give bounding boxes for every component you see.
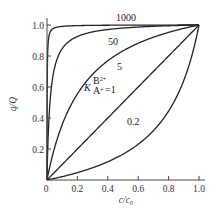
y-axis-title: q/Q	[8, 97, 18, 111]
svg-text:K: K	[83, 82, 92, 93]
curve-label-50: 50	[108, 36, 118, 47]
curve-label-1000: 1000	[116, 12, 136, 23]
ion-exchange-isotherm-chart: 00.20.40.60.81.00.20.40.60.81.0 1000 50 …	[0, 0, 219, 210]
y-tick-label: 0.6	[32, 83, 44, 93]
svg-text:=1: =1	[105, 84, 116, 95]
curve-k-1	[47, 25, 199, 180]
curve-label-0-2: 0.2	[127, 116, 140, 127]
x-tick-label: 0.8	[163, 184, 175, 194]
x-tick-label: 0.4	[102, 184, 114, 194]
isotherm-curves	[47, 25, 199, 180]
x-tick-label: 0.6	[132, 184, 144, 194]
curve-label-k-1: K B2+ A+ =1	[83, 75, 116, 96]
curve-label-5: 5	[117, 61, 122, 72]
y-tick-label: 0.4	[32, 114, 44, 124]
y-tick-label: 0.8	[32, 52, 44, 62]
svg-text:A+: A+	[93, 85, 104, 96]
x-tick-label: 0	[44, 184, 49, 194]
y-tick-label: 0.2	[32, 145, 44, 155]
y-tick-label: 1.0	[32, 21, 44, 31]
x-tick-label: 1.0	[193, 184, 205, 194]
x-axis-title: c/c₀	[119, 195, 133, 205]
x-tick-label: 0.2	[71, 184, 83, 194]
